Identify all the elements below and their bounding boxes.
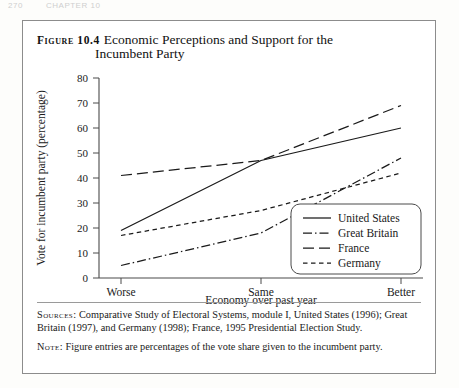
line-chart-svg: 01020304050607080 WorseSameBetter Vote f… xyxy=(23,21,437,321)
legend-label-france: France xyxy=(338,242,369,254)
legend-label-great-britain: Great Britain xyxy=(338,227,399,239)
footer-divider xyxy=(37,302,421,303)
legend-label-united-states: United States xyxy=(338,212,400,224)
y-tick-label: 80 xyxy=(77,72,89,84)
y-tick-label: 0 xyxy=(83,272,89,284)
y-tick-label: 60 xyxy=(77,122,89,134)
sources-label: Sources: xyxy=(37,309,76,320)
x-axis-title: Economy over past year xyxy=(205,294,317,307)
y-axis-tick-labels: 01020304050607080 xyxy=(77,72,89,284)
y-tick-label: 50 xyxy=(77,147,89,159)
y-tick-label: 30 xyxy=(77,197,89,209)
y-axis-ticks xyxy=(93,78,99,278)
y-tick-label: 10 xyxy=(77,247,89,259)
sources-block: Sources: Comparative Study of Electoral … xyxy=(37,309,423,334)
sources-line-1: Comparative Study of Electoral Systems, … xyxy=(79,309,382,320)
y-tick-label: 20 xyxy=(77,222,89,234)
series-line-france xyxy=(121,106,401,176)
figure-footnotes: Sources: Comparative Study of Electoral … xyxy=(37,309,423,354)
page-number: 270 xyxy=(8,1,23,10)
x-axis-ticks xyxy=(121,278,401,284)
x-category-label-worse: Worse xyxy=(106,286,135,298)
legend-label-germany: Germany xyxy=(338,257,381,270)
note-label: Note: xyxy=(37,341,63,352)
page-running-header: 270 CHAPTER 10 xyxy=(0,0,459,16)
note-block: Note: Figure entries are percentages of … xyxy=(37,341,423,354)
chart-legend: United StatesGreat BritainFranceGermany xyxy=(291,204,421,274)
y-tick-label: 70 xyxy=(77,97,89,109)
figure-box: Figure 10.4 Economic Perceptions and Sup… xyxy=(22,20,436,374)
y-axis-title: Vote for incumbent party (percentage) xyxy=(35,90,48,266)
running-title: CHAPTER 10 xyxy=(46,1,100,10)
x-category-label-better: Better xyxy=(387,286,415,298)
note-text: Figure entries are percentages of the vo… xyxy=(65,341,382,352)
y-tick-label: 40 xyxy=(77,172,89,184)
